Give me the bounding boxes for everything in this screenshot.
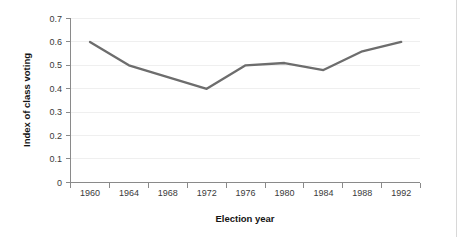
y-tick-label: 0.7	[49, 14, 62, 24]
x-tick-label: 1992	[391, 188, 411, 198]
chart-figure: 0.7 0.6 0.5 0.4 0.3 0.2 0.1 0 1960 1964 …	[0, 0, 457, 237]
x-tick-label: 1960	[80, 188, 100, 198]
x-tick-labels: 1960 1964 1968 1972 1976 1980 1984 1988 …	[80, 188, 411, 198]
y-tick-label: 0.2	[49, 131, 62, 141]
x-tick-label: 1984	[313, 188, 333, 198]
y-tick-label: 0.3	[49, 107, 62, 117]
x-tick-label: 1988	[352, 188, 372, 198]
y-tick-marks	[66, 19, 70, 183]
y-tick-label: 0.5	[49, 60, 62, 70]
x-tick-label: 1972	[197, 188, 217, 198]
x-tick-label: 1976	[236, 188, 256, 198]
y-tick-label: 0.4	[49, 84, 62, 94]
line-chart: 0.7 0.6 0.5 0.4 0.3 0.2 0.1 0 1960 1964 …	[0, 0, 457, 237]
y-tick-label: 0	[57, 178, 62, 188]
y-tick-label: 0.1	[49, 154, 62, 164]
x-axis-title: Election year	[215, 213, 274, 224]
y-tick-label: 0.6	[49, 37, 62, 47]
x-tick-label: 1964	[119, 188, 139, 198]
x-tick-label: 1968	[158, 188, 178, 198]
gridlines	[70, 19, 420, 159]
y-axis-title: Index of class voting	[21, 53, 32, 147]
y-tick-labels: 0.7 0.6 0.5 0.4 0.3 0.2 0.1 0	[49, 14, 62, 188]
x-tick-label: 1980	[274, 188, 294, 198]
